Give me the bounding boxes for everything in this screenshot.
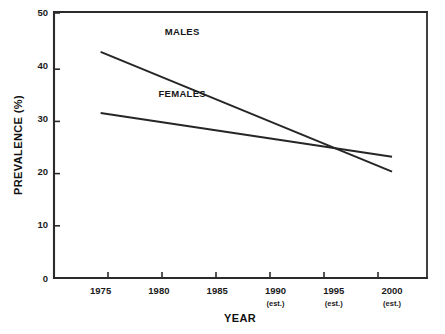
y-tick-label-40: 40 <box>37 60 48 71</box>
x-tick-sublabel-2000: (est.) <box>383 299 401 308</box>
series-label-females: FEMALES <box>158 88 206 99</box>
y-tick-label-30: 30 <box>37 113 48 124</box>
x-axis-title: YEAR <box>224 312 256 324</box>
x-tick-label-2000: 2000 <box>381 285 402 296</box>
chart-figure: 0 10 20 30 40 50 1975 1980 1985 1990 199… <box>0 0 445 334</box>
chart-canvas: 0 10 20 30 40 50 1975 1980 1985 1990 199… <box>0 0 445 334</box>
y-tick-label-0: 0 <box>43 273 48 284</box>
series-line-females <box>101 113 392 157</box>
y-axis-tick-labels: 0 10 20 30 40 50 <box>37 7 48 284</box>
series-labels: MALES FEMALES <box>158 26 206 99</box>
y-tick-label-10: 10 <box>37 219 48 230</box>
x-tick-label-1980: 1980 <box>148 285 169 296</box>
x-tick-sublabel-1995: (est.) <box>325 299 343 308</box>
series-label-males: MALES <box>165 26 200 37</box>
axes-frame <box>54 12 427 278</box>
x-tick-sublabel-1990: (est.) <box>267 299 285 308</box>
x-tick-label-1985: 1985 <box>207 285 229 296</box>
series-line-males <box>101 52 392 172</box>
series-group <box>101 52 392 172</box>
y-tick-label-50: 50 <box>37 7 48 18</box>
x-tick-label-1990: 1990 <box>265 285 286 296</box>
x-tick-label-1975: 1975 <box>90 285 112 296</box>
y-axis-title: PREVALENCE (%) <box>12 95 24 195</box>
y-tick-label-20: 20 <box>37 166 48 177</box>
x-tick-label-1995: 1995 <box>323 285 345 296</box>
x-axis-tick-labels: 1975 1980 1985 1990 1995 2000 (est.) (es… <box>90 285 403 308</box>
